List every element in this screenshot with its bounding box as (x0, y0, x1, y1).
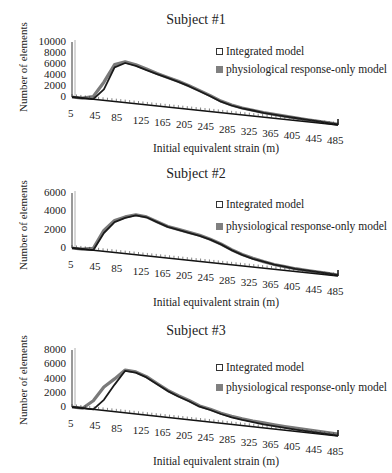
x-tick-label: 285 (219, 274, 236, 286)
x-tick-label: 125 (133, 265, 150, 277)
x-tick-label: 405 (284, 280, 301, 292)
x-tick-label: 125 (133, 424, 150, 436)
legend-item-physio: physiological response-only model (216, 378, 387, 396)
y-tick-label: 0 (26, 400, 66, 412)
x-axis-label: Initial equivalent strain (m) (0, 296, 392, 308)
x-tick-label: 485 (327, 134, 344, 146)
x-tick-label: 405 (284, 440, 301, 452)
x-tick-label: 5 (68, 258, 74, 270)
legend-item-integrated: Integrated model (216, 358, 387, 376)
x-tick-label: 85 (111, 111, 122, 123)
x-tick-label: 245 (197, 431, 214, 443)
legend-swatch-filled (216, 384, 223, 391)
x-tick-label: 405 (284, 129, 301, 141)
x-tick-label: 365 (262, 127, 279, 139)
legend-item-integrated: Integrated model (216, 195, 387, 213)
x-tick-label: 45 (90, 109, 101, 121)
legend-swatch-filled (216, 223, 223, 230)
legend-swatch-open (216, 48, 223, 55)
x-tick-label: 285 (219, 123, 236, 135)
legend-swatch-open (216, 201, 223, 208)
legend: Integrated model physiological response-… (216, 42, 387, 78)
y-tick-label: 6000 (26, 357, 66, 369)
legend: Integrated model physiological response-… (216, 358, 387, 396)
x-tick-label: 165 (154, 426, 171, 438)
x-tick-label: 325 (241, 436, 258, 448)
x-tick-label: 365 (262, 438, 279, 450)
x-tick-label: 45 (90, 419, 101, 431)
x-tick-label: 205 (176, 118, 193, 130)
x-tick-label: 485 (327, 445, 344, 457)
x-tick-label: 205 (176, 269, 193, 281)
y-tick-label: 4000 (26, 372, 66, 384)
y-tick-label: 2000 (26, 223, 66, 235)
x-tick-label: 285 (219, 433, 236, 445)
legend-item-physio: physiological response-only model (216, 217, 387, 235)
x-tick-label: 485 (327, 285, 344, 297)
chart-subject-2: Subject #2 Number of elements Integrated… (0, 158, 392, 313)
x-tick-label: 125 (133, 114, 150, 126)
x-tick-label: 45 (90, 260, 101, 272)
x-tick-label: 245 (197, 120, 214, 132)
y-tick-label: 0 (26, 90, 66, 102)
legend: Integrated model physiological response-… (216, 195, 387, 235)
x-tick-label: 205 (176, 429, 193, 441)
x-tick-label: 325 (241, 276, 258, 288)
y-tick-label: 0 (26, 241, 66, 253)
x-tick-label: 245 (197, 271, 214, 283)
y-tick-label: 6000 (26, 186, 66, 198)
legend-swatch-open (216, 364, 223, 371)
x-tick-label: 85 (111, 422, 122, 434)
x-tick-label: 365 (262, 278, 279, 290)
legend-item-physio: physiological response-only model (216, 60, 387, 78)
x-tick-label: 445 (305, 443, 322, 455)
chart-subject-3: Subject #3 Number of elements Integrated… (0, 313, 392, 473)
y-tick-label: 2000 (26, 386, 66, 398)
x-tick-label: 5 (68, 107, 74, 119)
chart-subject-1: Subject #1 Number of elements Integrated… (0, 0, 392, 158)
x-tick-label: 445 (305, 132, 322, 144)
legend-swatch-filled (216, 66, 223, 73)
x-tick-label: 165 (154, 116, 171, 128)
x-tick-label: 5 (68, 417, 74, 429)
x-tick-label: 85 (111, 262, 122, 274)
legend-item-integrated: Integrated model (216, 42, 387, 60)
x-tick-label: 165 (154, 267, 171, 279)
y-tick-label: 4000 (26, 204, 66, 216)
x-tick-label: 445 (305, 283, 322, 295)
x-tick-label: 325 (241, 125, 258, 137)
y-tick-label: 8000 (26, 343, 66, 355)
